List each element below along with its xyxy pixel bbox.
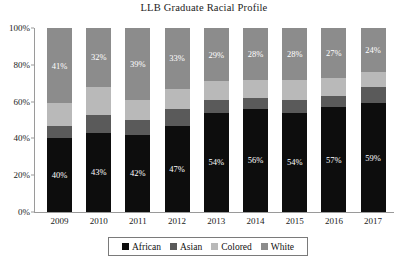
bar-segment-african-2013[interactable]: 54% bbox=[204, 113, 229, 212]
x-axis-tick-2011: 2011 bbox=[116, 216, 160, 226]
legend-item-colored[interactable]: Colored bbox=[211, 242, 252, 252]
bar-group-2014[interactable]: 28%56% bbox=[243, 28, 268, 212]
bar-value-label: 28% bbox=[243, 50, 268, 59]
bar-group-2011[interactable]: 39%42% bbox=[125, 28, 150, 212]
plot-area: 100%80%60%40%20%0% 41%40%32%43%39%42%33%… bbox=[34, 28, 396, 212]
bar-group-2010[interactable]: 32%43% bbox=[86, 28, 111, 212]
y-axis-tick-60: 60% bbox=[14, 97, 31, 107]
legend-label: Colored bbox=[221, 242, 252, 252]
x-axis-tick-2010: 2010 bbox=[77, 216, 121, 226]
bar-stack: 28%56% bbox=[243, 28, 268, 212]
bar-segment-white-2016[interactable]: 27% bbox=[321, 28, 346, 78]
bar-segment-colored-2015[interactable] bbox=[282, 80, 307, 100]
y-axis-tickmark bbox=[31, 64, 34, 65]
bar-segment-colored-2013[interactable] bbox=[204, 81, 229, 99]
bar-segment-asian-2011[interactable] bbox=[125, 120, 150, 135]
bar-segment-colored-2017[interactable] bbox=[361, 72, 386, 87]
bar-segment-white-2014[interactable]: 28% bbox=[243, 28, 268, 80]
bar-segment-african-2012[interactable]: 47% bbox=[165, 126, 190, 212]
bar-segment-asian-2009[interactable] bbox=[47, 126, 72, 139]
bar-segment-asian-2010[interactable] bbox=[86, 115, 111, 133]
bar-stack: 29%54% bbox=[204, 28, 229, 212]
legend-label: White bbox=[271, 242, 294, 252]
legend-label: Asian bbox=[180, 242, 202, 252]
bar-value-label: 57% bbox=[321, 155, 346, 164]
bar-stack: 32%43% bbox=[86, 28, 111, 212]
bar-segment-white-2011[interactable]: 39% bbox=[125, 28, 150, 100]
bar-segment-african-2014[interactable]: 56% bbox=[243, 109, 268, 212]
bar-segment-colored-2012[interactable] bbox=[165, 89, 190, 109]
y-axis-tickmark bbox=[31, 101, 34, 102]
x-axis-tick-2013: 2013 bbox=[194, 216, 238, 226]
y-axis-tick-20: 20% bbox=[14, 170, 31, 180]
bar-series-layer: 41%40%32%43%39%42%33%47%29%54%28%56%28%5… bbox=[35, 28, 394, 212]
bar-segment-white-2009[interactable]: 41% bbox=[47, 28, 72, 103]
bar-segment-african-2009[interactable]: 40% bbox=[47, 138, 72, 212]
bar-value-label: 54% bbox=[282, 158, 307, 167]
bar-stack: 28%54% bbox=[282, 28, 307, 212]
bar-segment-white-2012[interactable]: 33% bbox=[165, 28, 190, 89]
legend-item-african[interactable]: African bbox=[122, 242, 161, 252]
x-axis-tick-2017: 2017 bbox=[351, 216, 395, 226]
x-axis-tick-2014: 2014 bbox=[234, 216, 278, 226]
bar-value-label: 59% bbox=[361, 153, 386, 162]
chart-container: LLB Graduate Racial Profile 100%80%60%40… bbox=[0, 0, 408, 274]
bar-stack: 24%59% bbox=[361, 28, 386, 212]
x-axis-tick-2015: 2015 bbox=[273, 216, 317, 226]
bar-value-label: 42% bbox=[125, 169, 150, 178]
y-axis-tickmark bbox=[31, 175, 34, 176]
bar-stack: 27%57% bbox=[321, 28, 346, 212]
x-axis-tick-2009: 2009 bbox=[38, 216, 82, 226]
y-axis-tick-100: 100% bbox=[9, 23, 30, 33]
x-axis-line bbox=[34, 212, 394, 213]
bar-segment-colored-2010[interactable] bbox=[86, 87, 111, 115]
y-axis-tickmark bbox=[31, 138, 34, 139]
bar-segment-colored-2011[interactable] bbox=[125, 100, 150, 120]
bar-segment-asian-2013[interactable] bbox=[204, 100, 229, 113]
bar-segment-colored-2009[interactable] bbox=[47, 103, 72, 125]
bar-segment-african-2016[interactable]: 57% bbox=[321, 107, 346, 212]
bar-segment-asian-2014[interactable] bbox=[243, 98, 268, 109]
legend-swatch-african-icon bbox=[122, 243, 129, 250]
x-axis-tick-2016: 2016 bbox=[312, 216, 356, 226]
bar-group-2013[interactable]: 29%54% bbox=[204, 28, 229, 212]
bar-segment-white-2010[interactable]: 32% bbox=[86, 28, 111, 87]
bar-segment-african-2017[interactable]: 59% bbox=[361, 103, 386, 212]
y-axis-tick-40: 40% bbox=[14, 133, 31, 143]
bar-segment-colored-2014[interactable] bbox=[243, 80, 268, 98]
bar-value-label: 56% bbox=[243, 156, 268, 165]
bar-group-2015[interactable]: 28%54% bbox=[282, 28, 307, 212]
bar-segment-asian-2016[interactable] bbox=[321, 96, 346, 107]
bar-value-label: 39% bbox=[125, 60, 150, 69]
bar-segment-african-2015[interactable]: 54% bbox=[282, 113, 307, 212]
y-axis-tick-0: 0% bbox=[18, 207, 30, 217]
y-axis-tick-80: 80% bbox=[14, 60, 31, 70]
bar-group-2012[interactable]: 33%47% bbox=[165, 28, 190, 212]
bar-value-label: 32% bbox=[86, 53, 111, 62]
legend-swatch-asian-icon bbox=[170, 243, 177, 250]
legend-swatch-white-icon bbox=[261, 243, 268, 250]
bar-segment-african-2010[interactable]: 43% bbox=[86, 133, 111, 212]
bar-segment-african-2011[interactable]: 42% bbox=[125, 135, 150, 212]
bar-segment-colored-2016[interactable] bbox=[321, 78, 346, 96]
x-axis-tick-2012: 2012 bbox=[155, 216, 199, 226]
bar-value-label: 27% bbox=[321, 49, 346, 58]
bar-segment-white-2017[interactable]: 24% bbox=[361, 28, 386, 72]
legend-item-white[interactable]: White bbox=[261, 242, 294, 252]
legend-item-asian[interactable]: Asian bbox=[170, 242, 202, 252]
bar-group-2017[interactable]: 24%59% bbox=[361, 28, 386, 212]
bar-segment-asian-2017[interactable] bbox=[361, 87, 386, 104]
bar-segment-asian-2015[interactable] bbox=[282, 100, 307, 113]
bar-segment-white-2013[interactable]: 29% bbox=[204, 28, 229, 81]
bar-group-2016[interactable]: 27%57% bbox=[321, 28, 346, 212]
bar-segment-white-2015[interactable]: 28% bbox=[282, 28, 307, 80]
bar-segment-asian-2012[interactable] bbox=[165, 109, 190, 126]
bar-value-label: 43% bbox=[86, 168, 111, 177]
y-axis-tickmark bbox=[31, 28, 34, 29]
bar-value-label: 40% bbox=[47, 171, 72, 180]
bar-group-2009[interactable]: 41%40% bbox=[47, 28, 72, 212]
legend-label: African bbox=[132, 242, 161, 252]
bar-value-label: 47% bbox=[165, 165, 190, 174]
bar-value-label: 33% bbox=[165, 54, 190, 63]
bar-stack: 39%42% bbox=[125, 28, 150, 212]
